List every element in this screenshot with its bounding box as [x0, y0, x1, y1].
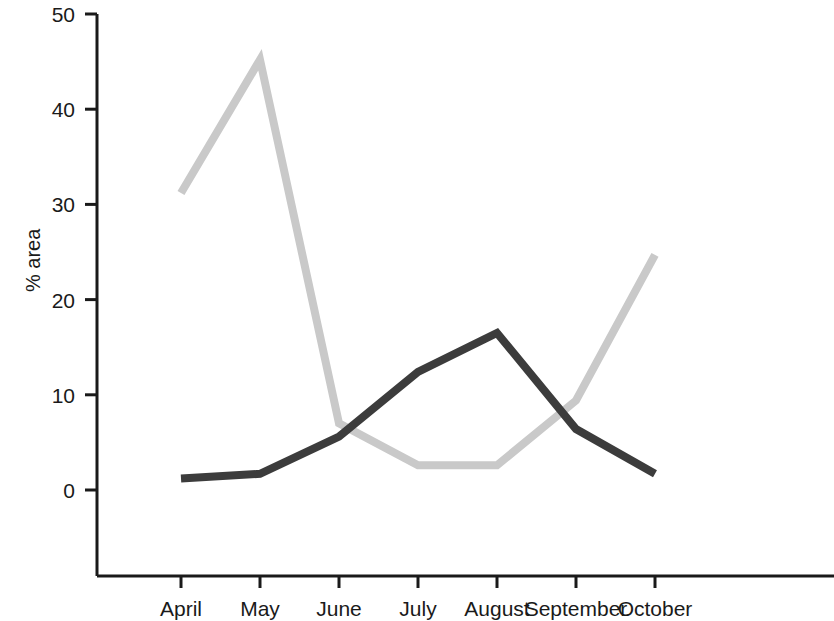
- series-line-light-gray-series: [181, 60, 655, 466]
- line-chart: 01020304050 AprilMayJuneJulyAugustSeptem…: [0, 0, 834, 621]
- chart-plot-area: [0, 0, 834, 621]
- x-axis-tick-label: May: [240, 598, 280, 619]
- x-axis-tick-label: June: [316, 598, 362, 619]
- y-axis-tick-label: 20: [10, 289, 75, 310]
- series-line-dark-gray-series: [181, 333, 655, 479]
- y-axis-title: % area: [22, 229, 45, 292]
- y-axis-tick-label: 30: [10, 194, 75, 215]
- y-axis-tick-label: 50: [10, 4, 75, 25]
- x-axis-tick-label: April: [160, 598, 202, 619]
- x-axis-tick-label: October: [618, 598, 693, 619]
- y-axis-tick-label: 40: [10, 99, 75, 120]
- data-series-group: [181, 60, 655, 479]
- x-axis-tick-label: September: [525, 598, 628, 619]
- y-axis-tick-label: 0: [10, 480, 75, 501]
- x-axis-ticks: [181, 576, 655, 588]
- x-axis-tick-label: July: [399, 598, 436, 619]
- x-axis-tick-label: August: [464, 598, 529, 619]
- y-axis-tick-label: 10: [10, 384, 75, 405]
- chart-axes: [97, 14, 834, 576]
- y-axis-ticks: [85, 14, 97, 490]
